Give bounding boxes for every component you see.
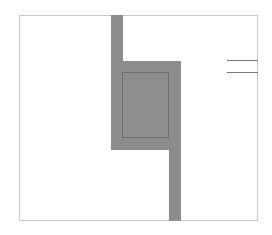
right-marker-line-bottom [227,72,258,73]
right-marker-line-top [227,60,258,61]
lower-vertical-bar [169,61,181,221]
inner-rectangle [122,72,169,138]
